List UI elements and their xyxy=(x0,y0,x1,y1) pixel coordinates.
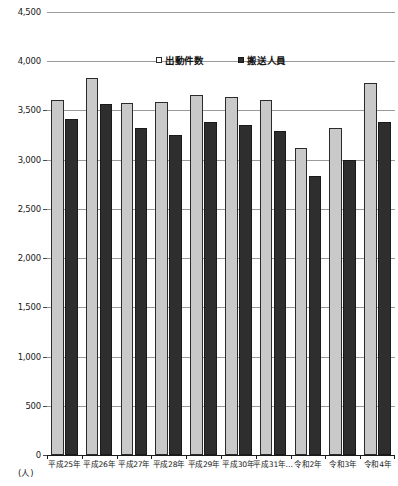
y-axis-tick-label: 500 xyxy=(0,401,41,411)
bar-transported-persons xyxy=(204,122,217,455)
x-axis-tick-mark xyxy=(325,455,326,459)
x-axis-tick-label: 平成30年 xyxy=(222,458,254,469)
bar-group xyxy=(325,12,360,455)
bar-dispatch-count xyxy=(190,95,203,455)
bar-dispatch-count xyxy=(260,100,273,455)
bar-dispatch-count xyxy=(364,83,377,455)
bar-transported-persons xyxy=(378,122,391,455)
x-axis-tick-label: 平成25年 xyxy=(48,458,80,469)
x-axis-tick-label: 平成26年 xyxy=(83,458,115,469)
bar-dispatch-count xyxy=(155,102,168,455)
y-axis-tick-label: 3,000 xyxy=(0,155,41,165)
bar-group xyxy=(186,12,221,455)
x-axis-tick-label: 平成28年 xyxy=(153,458,185,469)
y-axis-tick-label: 1,000 xyxy=(0,352,41,362)
bar-chart: 4,5004,0003,5003,0002,5002,0001,5001,000… xyxy=(0,0,398,486)
x-axis-tick-label: 令和4年 xyxy=(364,458,392,469)
bar-dispatch-count xyxy=(121,103,134,455)
bar-group xyxy=(151,12,186,455)
y-axis-tick-label: 3,500 xyxy=(0,105,41,115)
bar-transported-persons xyxy=(239,125,252,455)
bar-group xyxy=(256,12,291,455)
y-axis-tick-label: 0 xyxy=(0,450,41,460)
bar-group xyxy=(360,12,395,455)
y-axis-tick-label: 1,500 xyxy=(0,302,41,312)
bar-transported-persons xyxy=(169,135,182,455)
x-axis-tick-mark xyxy=(360,455,361,459)
x-axis-tick-label: 令和2年 xyxy=(294,458,322,469)
x-axis-tick-label: 令和3年 xyxy=(329,458,357,469)
bar-transported-persons xyxy=(309,176,322,455)
bar-group xyxy=(47,12,82,455)
plot-area: 4,5004,0003,5003,0002,5002,0001,5001,000… xyxy=(47,12,395,455)
bar-transported-persons xyxy=(274,131,287,455)
bar-dispatch-count xyxy=(51,100,64,455)
x-axis-tick-label: 平成29年 xyxy=(188,458,220,469)
bar-dispatch-count xyxy=(225,97,238,455)
x-axis-tick-label: 平成31年… xyxy=(253,458,292,469)
y-axis-tick-label: 4,500 xyxy=(0,7,41,17)
bar-groups xyxy=(47,12,395,455)
x-axis-tick-mark xyxy=(394,455,395,459)
y-axis-tick-label: 2,000 xyxy=(0,253,41,263)
bar-group xyxy=(291,12,326,455)
bar-transported-persons xyxy=(100,104,113,455)
bar-transported-persons xyxy=(65,119,78,455)
y-axis-unit-label: (人) xyxy=(18,466,34,478)
bar-transported-persons xyxy=(135,128,148,455)
bar-group xyxy=(221,12,256,455)
bar-dispatch-count xyxy=(329,128,342,455)
y-axis-tick-label: 2,500 xyxy=(0,204,41,214)
bar-dispatch-count xyxy=(86,78,99,455)
bar-group xyxy=(117,12,152,455)
bar-dispatch-count xyxy=(295,148,308,455)
bar-group xyxy=(82,12,117,455)
bar-transported-persons xyxy=(343,160,356,455)
x-axis-tick-label: 平成27年 xyxy=(118,458,150,469)
y-axis-tick-label: 4,000 xyxy=(0,56,41,66)
